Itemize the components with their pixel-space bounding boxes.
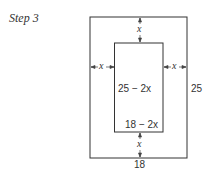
inner-width-label: 18 − 2x [125,119,158,130]
left-margin-label: x [99,60,103,71]
outer-width-label: 18 [134,159,145,170]
bottom-margin-label: x [137,138,141,149]
right-margin-label: x [172,60,176,71]
top-margin-label: x [137,23,141,34]
outer-height-label: 25 [191,83,202,94]
box-diagram [0,0,207,172]
inner-height-label: 25 − 2x [118,83,151,94]
